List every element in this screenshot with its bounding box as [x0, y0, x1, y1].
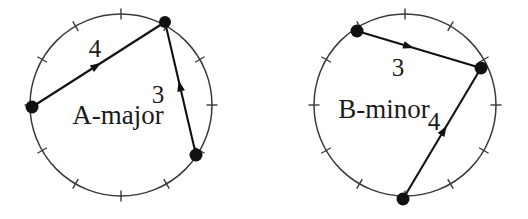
- pitch-class-circle-figure: 43A-major34B-minor: [0, 0, 528, 219]
- interval-chord-3-arrowhead: [177, 81, 185, 93]
- left-diagram-chord-name-label: A-major: [72, 100, 163, 130]
- pitch-class-tick: [37, 148, 47, 154]
- pitch-class-tick: [448, 21, 454, 31]
- right-vertex: [475, 62, 488, 75]
- figure-canvas: 43A-major34B-minor: [0, 0, 528, 219]
- pitch-class-tick: [321, 57, 331, 63]
- top-vertex: [159, 16, 171, 28]
- bottom-vertex: [397, 193, 410, 206]
- interval-chord-4-label: 4: [89, 35, 102, 62]
- pitch-class-tick: [73, 21, 79, 31]
- left-diagram: 43A-major: [25, 9, 218, 202]
- root-vertex: [26, 101, 39, 114]
- pitch-class-tick: [164, 179, 170, 189]
- interval-chord-3-line: [357, 31, 481, 68]
- pitch-class-tick: [195, 57, 205, 63]
- lower-right-vertex: [190, 149, 203, 162]
- pitch-class-tick: [321, 148, 331, 154]
- interval-chord-4-arrowhead: [90, 63, 101, 72]
- pitch-class-tick: [357, 179, 363, 189]
- right-diagram: 34B-minor: [309, 9, 502, 206]
- interval-chord-3-arrowhead: [402, 41, 414, 48]
- root-vertex: [351, 25, 364, 38]
- interval-chord-3-label: 3: [392, 54, 405, 81]
- pitch-class-tick: [73, 179, 79, 189]
- right-diagram-chord-name-label: B-minor: [338, 94, 430, 124]
- pitch-class-tick: [479, 57, 489, 63]
- pitch-class-tick: [37, 57, 47, 63]
- pitch-class-tick: [479, 148, 489, 154]
- pitch-class-tick: [448, 179, 454, 189]
